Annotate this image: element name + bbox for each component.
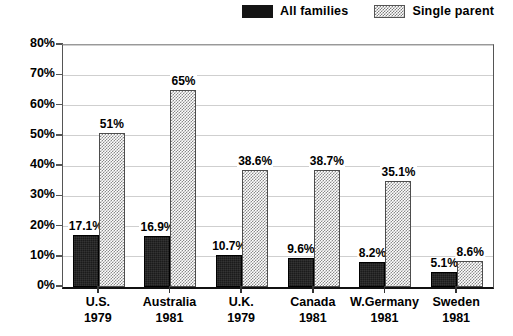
y-axis-tick-label: 60% (0, 97, 55, 111)
bar-value-label: 38.6% (237, 155, 273, 168)
bar-value-label: 9.6% (286, 243, 315, 256)
x-axis-tick-label: Canada1981 (277, 294, 349, 326)
x-axis-tick-mark (169, 286, 171, 293)
y-axis-tick-label: 70% (0, 66, 55, 80)
bar-single-parent[interactable]: 8.6% (457, 261, 483, 287)
legend-label-single-parent: Single parent (412, 4, 494, 18)
bar-single-parent[interactable]: 65% (170, 90, 196, 287)
x-axis-country-label: U.S. (62, 294, 134, 310)
legend-swatch-all-families (242, 5, 273, 18)
x-axis-tick-label: U.K.1979 (205, 294, 277, 326)
bar-single-parent[interactable]: 35.1% (385, 181, 411, 287)
y-axis-tick-label: 20% (0, 218, 55, 232)
bar-group: 8.2%35.1% (350, 45, 422, 287)
x-axis-tick-mark (455, 286, 457, 293)
bar-value-label: 8.6% (455, 246, 484, 259)
x-axis-tick-mark (384, 286, 386, 293)
bar-value-label: 35.1% (380, 166, 416, 179)
x-axis-tick-label: U.S.1979 (62, 294, 134, 326)
x-axis-country-label: Sweden (420, 294, 492, 310)
bar-group: 5.1%8.6% (421, 45, 493, 287)
bar-group: 17.1%51% (63, 45, 135, 287)
x-axis-year-label: 1981 (349, 310, 421, 326)
x-axis-tick-mark (97, 286, 99, 293)
bar-value-label: 65% (170, 75, 196, 88)
x-axis-year-label: 1979 (62, 310, 134, 326)
x-axis-tick-label: Australia1981 (134, 294, 206, 326)
bar-value-label: 8.2% (358, 247, 387, 260)
bar-group: 10.7%38.6% (206, 45, 278, 287)
bar-value-label: 38.7% (309, 155, 345, 168)
legend-label-all-families: All families (280, 4, 348, 18)
x-axis-country-label: U.K. (205, 294, 277, 310)
bar-all-families[interactable]: 8.2% (359, 262, 385, 287)
bar-all-families[interactable]: 16.9% (144, 236, 170, 287)
x-axis-tick-label: W.Germany1981 (349, 294, 421, 326)
x-axis-country-label: W.Germany (349, 294, 421, 310)
bar-all-families[interactable]: 17.1% (73, 235, 99, 287)
legend-swatch-single-parent (374, 5, 405, 18)
chart-canvas: All families Single parent 0%10%20%30%40… (0, 0, 513, 336)
x-axis-country-label: Australia (134, 294, 206, 310)
y-axis-tick-label: 80% (0, 36, 55, 50)
x-axis-tick-mark (240, 286, 242, 293)
x-axis-year-label: 1981 (134, 310, 206, 326)
bar-value-label: 51% (99, 118, 125, 131)
y-axis-tick-label: 0% (0, 278, 55, 292)
x-axis-tick-mark (312, 286, 314, 293)
chart-legend: All families Single parent (242, 2, 494, 20)
x-axis-year-label: 1981 (420, 310, 492, 326)
x-axis-tick-label: Sweden1981 (420, 294, 492, 326)
bar-all-families[interactable]: 5.1% (431, 272, 457, 287)
bar-all-families[interactable]: 10.7% (216, 255, 242, 287)
bar-value-label: 5.1% (429, 257, 458, 270)
bar-all-families[interactable]: 9.6% (288, 258, 314, 287)
x-axis-year-label: 1979 (205, 310, 277, 326)
legend-entry-single-parent: Single parent (374, 4, 494, 18)
y-axis-tick-label: 40% (0, 157, 55, 171)
x-axis-year-label: 1981 (277, 310, 349, 326)
bar-group: 16.9%65% (135, 45, 207, 287)
bar-group: 9.6%38.7% (278, 45, 350, 287)
legend-entry-all-families: All families (242, 4, 348, 18)
y-axis-tick-label: 30% (0, 187, 55, 201)
x-axis-country-label: Canada (277, 294, 349, 310)
y-axis-tick-label: 50% (0, 127, 55, 141)
bar-single-parent[interactable]: 38.6% (242, 170, 268, 287)
y-axis-tick-label: 10% (0, 248, 55, 262)
plot-area: 17.1%51%16.9%65%10.7%38.6%9.6%38.7%8.2%3… (62, 44, 494, 289)
bar-single-parent[interactable]: 38.7% (314, 170, 340, 287)
bar-single-parent[interactable]: 51% (99, 133, 125, 287)
